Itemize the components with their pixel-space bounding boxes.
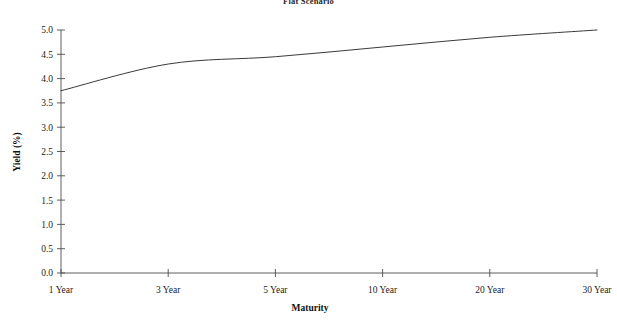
y-tick-label: 3.0: [41, 123, 53, 133]
x-tick-label: 10 Year: [368, 285, 398, 295]
x-tick-label: 1 Year: [49, 285, 74, 295]
y-tick-label: 5.0: [41, 25, 53, 35]
y-tick-label: 3.5: [41, 98, 53, 108]
x-tick-label: 20 Year: [475, 285, 505, 295]
y-tick-label: 0.5: [41, 244, 53, 254]
series-group: [61, 30, 597, 91]
y-axis-title: Yield (%): [12, 132, 23, 172]
x-tick-label: 30 Year: [582, 285, 612, 295]
y-tick-label: 2.5: [41, 147, 53, 157]
y-tick-label: 1.5: [41, 196, 53, 206]
series-line-0: [61, 30, 597, 91]
y-tick-label: 4.5: [41, 50, 53, 60]
yield-curve-plot: 0.00.51.01.52.02.53.03.54.04.55.0 1 Year…: [0, 0, 617, 333]
x-tick-label: 3 Year: [156, 285, 181, 295]
y-tick-label: 2.0: [41, 171, 53, 181]
chart-figure: Flat Scenario 0.00.51.01.52.02.53.03.54.…: [0, 0, 617, 333]
y-tick-label: 4.0: [41, 74, 53, 84]
y-tick-label: 0.0: [41, 268, 53, 278]
x-tick-label: 5 Year: [263, 285, 288, 295]
y-tick-label: 1.0: [41, 220, 53, 230]
x-axis-title: Maturity: [292, 303, 329, 313]
